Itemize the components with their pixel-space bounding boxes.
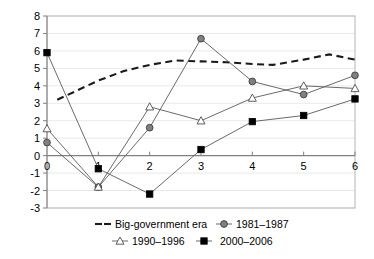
chart-legend: Big-government era1981–19871990–19962000…	[95, 218, 289, 247]
y-tick-label--2: -2	[30, 185, 40, 197]
x-tick-label-4: 4	[249, 160, 255, 172]
legend-label-2000-2006: 2000–2006	[220, 235, 273, 247]
y-tick-label--1: -1	[30, 167, 40, 179]
legend-swatch-circle	[221, 221, 228, 228]
x-tick-label-0: 0	[44, 160, 50, 172]
plot-frame	[47, 16, 355, 208]
y-tick-label-1: 1	[34, 132, 40, 144]
data-point-4-5	[300, 112, 306, 118]
data-point-4-2	[146, 191, 152, 197]
data-point-2-2	[146, 124, 153, 131]
legend-swatch-square	[201, 238, 207, 244]
y-tick-label-5: 5	[34, 62, 40, 74]
data-point-4-4	[249, 118, 255, 124]
data-point-4-6	[352, 96, 358, 102]
data-point-3-2	[146, 103, 154, 110]
data-point-4-3	[198, 146, 204, 152]
legend-label-1990-1996: 1990–1996	[132, 235, 185, 247]
y-tick-label-3: 3	[34, 97, 40, 109]
data-point-2-6	[352, 72, 359, 79]
x-tick-label-3: 3	[198, 160, 204, 172]
x-tick-label-6: 6	[352, 160, 358, 172]
y-tick-label-6: 6	[34, 45, 40, 57]
data-point-2-4	[249, 78, 256, 85]
data-point-2-3	[198, 35, 205, 42]
legend-label-big-government-era: Big-government era	[115, 218, 207, 230]
data-point-2-0	[44, 139, 51, 146]
x-tick-label-5: 5	[301, 160, 307, 172]
data-point-2-5	[300, 91, 307, 98]
y-tick-label-7: 7	[34, 27, 40, 39]
legend-label-1981-1987: 1981–1987	[236, 218, 289, 230]
series-3	[43, 82, 359, 190]
line-chart: 876543210-1-2-30123456Big-government era…	[0, 0, 374, 259]
y-tick-label-8: 8	[34, 10, 40, 22]
y-tick-label-2: 2	[34, 115, 40, 127]
chart-container: 876543210-1-2-30123456Big-government era…	[0, 0, 374, 259]
data-point-3-0	[43, 125, 51, 132]
series-line-3	[47, 86, 355, 187]
y-tick-label--3: -3	[30, 202, 40, 214]
x-tick-label-2: 2	[147, 160, 153, 172]
series-line-1	[57, 54, 355, 99]
y-tick-label-4: 4	[34, 80, 40, 92]
y-tick-label-0: 0	[34, 150, 40, 162]
data-point-4-0	[44, 49, 50, 55]
series-1	[57, 54, 355, 99]
data-point-4-1	[95, 166, 101, 172]
